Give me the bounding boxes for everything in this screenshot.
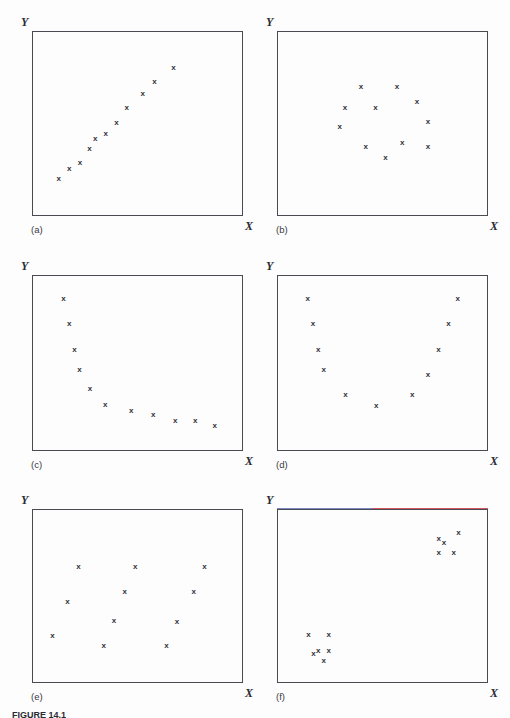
- y-axis-label-f: Y: [266, 494, 273, 506]
- scatterplot-panel-d: xxxxxxxxxxx Y X (d): [277, 275, 488, 451]
- x-axis-label-e: X: [245, 687, 253, 699]
- plot-frame-e: [32, 509, 243, 683]
- x-axis-label-c: X: [245, 455, 253, 467]
- scatterplot-panel-b: xxxxxxxxxxx Y X (b): [277, 31, 488, 216]
- plot-frame-c: [32, 275, 243, 451]
- scatterplot-panel-a: xxxxxxxxxxx Y X (a): [32, 31, 243, 216]
- panel-label-d: (d): [276, 460, 288, 470]
- panel-label-b: (b): [276, 225, 288, 235]
- plot-frame-a: [32, 31, 243, 216]
- scatterplot-panel-e: xxxxxxxxxxx Y X (e): [32, 509, 243, 683]
- x-axis-label-f: X: [490, 687, 498, 699]
- panel-label-a: (a): [31, 225, 43, 235]
- panel-label-c: (c): [31, 460, 42, 470]
- y-axis-label-d: Y: [266, 260, 273, 272]
- y-axis-label-e: Y: [21, 494, 28, 506]
- scatterplot-panel-c: xxxxxxxxxxx Y X (c): [32, 275, 243, 451]
- plot-frame-d: [277, 275, 488, 451]
- panel-label-f: (f): [276, 692, 285, 702]
- x-axis-label-d: X: [490, 455, 498, 467]
- x-axis-label-b: X: [490, 220, 498, 232]
- scatterplot-panel-f: xxxxxxxxxxx Y X (f): [277, 509, 488, 683]
- y-axis-label-b: Y: [266, 16, 273, 28]
- y-axis-label-a: Y: [21, 16, 28, 28]
- plot-frame-f: [277, 509, 488, 683]
- x-axis-label-a: X: [245, 220, 253, 232]
- figure-container: xxxxxxxxxxx Y X (a) xxxxxxxxxxx Y X (b) …: [0, 0, 510, 718]
- panel-label-e: (e): [31, 692, 43, 702]
- plot-frame-b: [277, 31, 488, 216]
- y-axis-label-c: Y: [21, 260, 28, 272]
- figure-caption: FIGURE 14.1: [12, 711, 66, 718]
